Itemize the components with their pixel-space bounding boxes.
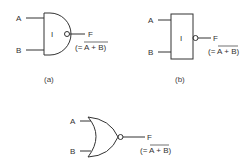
- gate-b: A B I F (= A + B) (b): [148, 14, 239, 84]
- gate-c-input-a-label: A: [70, 117, 76, 126]
- gate-c-body: [88, 117, 118, 157]
- gate-a-output-label: F: [88, 30, 93, 39]
- gate-c: A B F (= A + B): [70, 117, 171, 157]
- gate-a-inner-label: I: [51, 30, 53, 39]
- gate-a-input-b-label: B: [16, 46, 21, 55]
- gate-c-inversion-bubble: [118, 135, 123, 140]
- gate-c-expression: (= A + B): [140, 146, 171, 155]
- gate-a-body: [44, 13, 71, 55]
- gate-a-input-a-label: A: [16, 14, 22, 23]
- gate-c-output-label: F: [147, 133, 152, 142]
- gate-b-inversion-bubble: [193, 36, 198, 41]
- gate-a-expression: (= A + B): [75, 43, 106, 52]
- gate-b-input-a-label: A: [148, 16, 154, 25]
- gate-a-caption: (a): [44, 75, 54, 84]
- gate-b-output-label: F: [213, 34, 218, 43]
- gate-b-caption: (b): [175, 75, 185, 84]
- gate-a: A B I F (= A + B) (a): [16, 13, 108, 84]
- gate-a-inversion-bubble: [65, 32, 70, 37]
- gate-b-expression: (= A + B): [208, 47, 239, 56]
- gate-b-input-b-label: B: [148, 48, 153, 57]
- nor-gate-diagram: A B I F (= A + B) (a) A B I F (= A + B) …: [0, 0, 252, 165]
- gate-c-input-b-label: B: [70, 147, 75, 156]
- gate-b-inner-label: I: [180, 34, 182, 43]
